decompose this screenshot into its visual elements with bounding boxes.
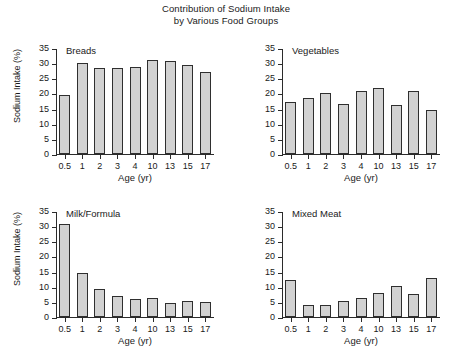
panel-breads: Sodium Intake (%) Breads 051015202530350… (0, 33, 226, 188)
x-axis-tick-label: 17 (192, 161, 218, 171)
bar (59, 95, 70, 154)
bar (77, 273, 88, 317)
y-axis-tick-label: 10 (39, 282, 49, 292)
bar (391, 105, 402, 154)
bar (285, 102, 296, 154)
bar (356, 91, 367, 154)
x-axis-tick (414, 155, 415, 159)
bar (94, 68, 105, 154)
x-axis-tick (205, 155, 206, 159)
x-axis-label: Age (yr) (56, 172, 214, 183)
x-axis-label: Age (yr) (56, 335, 214, 346)
plot-area: 051015202530350.5123410131517 (282, 49, 440, 155)
y-axis-label: Sodium Intake (%) (12, 31, 22, 141)
bar (303, 98, 314, 154)
x-axis-tick (326, 318, 327, 322)
bar (147, 298, 158, 317)
sodium-intake-figure: Contribution of Sodium Intake by Various… (0, 0, 452, 362)
y-axis-tick: 20 (278, 257, 283, 258)
y-axis-label: Sodium Intake (%) (12, 194, 22, 304)
bar (94, 289, 105, 317)
x-axis-tick (117, 318, 118, 322)
x-axis-tick (291, 155, 292, 159)
plot-area: 051015202530350.5123410131517 (56, 212, 214, 318)
x-axis-tick-label: 17 (418, 324, 444, 334)
bar (426, 278, 437, 317)
x-axis-tick (153, 318, 154, 322)
y-axis-tick: 25 (278, 79, 283, 80)
y-axis-tick-label: 5 (270, 297, 275, 307)
y-axis-tick-label: 25 (39, 73, 49, 83)
bar (200, 302, 211, 317)
bar (338, 301, 349, 317)
figure-title-line-1: Contribution of Sodium Intake (0, 3, 452, 15)
y-axis-tick: 10 (278, 288, 283, 289)
y-axis-tick: 0 (52, 155, 57, 156)
x-axis-tick (170, 155, 171, 159)
bar (130, 67, 141, 154)
y-axis-tick: 30 (52, 64, 57, 65)
y-axis-tick-label: 0 (270, 149, 275, 159)
x-axis-tick (414, 318, 415, 322)
y-axis-tick: 35 (52, 49, 57, 50)
y-axis-tick: 35 (52, 212, 57, 213)
x-axis-tick-label: 17 (418, 161, 444, 171)
y-axis-tick: 10 (52, 125, 57, 126)
y-axis-tick-label: 25 (265, 73, 275, 83)
x-axis-tick (170, 318, 171, 322)
x-axis-tick (343, 318, 344, 322)
panel-milk-formula: Sodium Intake (%) Milk/Formula 051015202… (0, 196, 226, 362)
y-axis-tick-label: 30 (265, 58, 275, 68)
y-axis-tick-label: 0 (44, 312, 49, 322)
y-axis-tick-label: 35 (39, 43, 49, 53)
x-axis-tick (188, 318, 189, 322)
y-axis-tick: 15 (52, 273, 57, 274)
x-axis-tick (291, 318, 292, 322)
x-axis-tick (361, 155, 362, 159)
y-axis-tick: 0 (278, 155, 283, 156)
y-axis-tick: 15 (278, 273, 283, 274)
bar (320, 305, 331, 317)
bar (59, 224, 70, 317)
y-axis-tick-label: 25 (265, 236, 275, 246)
y-axis-tick-label: 35 (265, 206, 275, 216)
y-axis-tick: 25 (52, 79, 57, 80)
y-axis-tick: 0 (52, 318, 57, 319)
figure-title: Contribution of Sodium Intake by Various… (0, 3, 452, 27)
bar (320, 93, 331, 154)
bar (130, 299, 141, 317)
y-axis-tick-label: 20 (265, 88, 275, 98)
y-axis-tick: 5 (52, 140, 57, 141)
y-axis-tick: 35 (278, 212, 283, 213)
y-axis-tick-label: 15 (39, 104, 49, 114)
x-axis-tick (65, 318, 66, 322)
plot-area: 051015202530350.5123410131517 (282, 212, 440, 318)
y-axis-tick: 30 (52, 227, 57, 228)
y-axis-tick: 35 (278, 49, 283, 50)
y-axis-tick-label: 5 (44, 297, 49, 307)
x-axis-label: Age (yr) (282, 172, 440, 183)
bar (356, 298, 367, 317)
x-axis-tick (343, 155, 344, 159)
bar (112, 296, 123, 317)
y-axis-tick-label: 20 (265, 251, 275, 261)
x-axis-tick (65, 155, 66, 159)
plot-area: 051015202530350.5123410131517 (56, 49, 214, 155)
x-axis-tick (82, 155, 83, 159)
x-axis-tick (431, 318, 432, 322)
x-axis-label: Age (yr) (282, 335, 440, 346)
y-axis-tick: 5 (52, 303, 57, 304)
x-axis-tick (100, 318, 101, 322)
bar (77, 63, 88, 154)
bar (338, 104, 349, 154)
y-axis-tick: 30 (278, 64, 283, 65)
bar (200, 72, 211, 154)
y-axis-tick-label: 5 (44, 134, 49, 144)
bar (182, 301, 193, 317)
y-axis-tick-label: 10 (265, 282, 275, 292)
y-axis-tick-label: 35 (265, 43, 275, 53)
x-axis-tick (117, 155, 118, 159)
y-axis-tick: 15 (278, 110, 283, 111)
bar (285, 280, 296, 317)
bar (373, 88, 384, 154)
